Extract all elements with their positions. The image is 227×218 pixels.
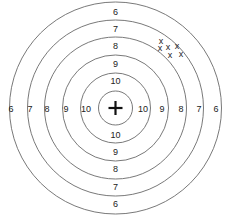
label-top-9: 9 — [113, 59, 118, 69]
label-bottom-9: 9 — [113, 147, 118, 157]
shot-mark: x — [168, 50, 173, 60]
label-top-10: 10 — [110, 76, 120, 86]
label-bottom-6: 6 — [113, 199, 118, 209]
labels-top: 6 7 8 9 10 — [110, 7, 120, 86]
label-bottom-8: 8 — [113, 164, 118, 174]
label-top-7: 7 — [113, 24, 118, 34]
label-left-9: 9 — [63, 104, 68, 114]
shot-mark: x — [158, 43, 163, 53]
labels-left: 6 7 8 9 10 — [8, 104, 91, 114]
label-left-6: 6 — [8, 104, 13, 114]
labels-bottom: 10 9 8 7 6 — [110, 130, 120, 209]
shot-mark: x — [179, 49, 184, 59]
label-top-8: 8 — [113, 41, 118, 51]
center-crosshair-icon — [109, 101, 123, 115]
label-top-6: 6 — [113, 7, 118, 17]
label-bottom-10: 10 — [110, 130, 120, 140]
shooting-target: 6 7 8 9 10 10 9 8 7 6 6 7 8 9 10 10 9 8 … — [0, 0, 227, 218]
label-right-10: 10 — [138, 104, 148, 114]
label-left-7: 7 — [27, 104, 32, 114]
label-bottom-7: 7 — [113, 182, 118, 192]
label-left-10: 10 — [81, 104, 91, 114]
label-left-8: 8 — [44, 104, 49, 114]
label-right-8: 8 — [178, 104, 183, 114]
label-right-9: 9 — [159, 104, 164, 114]
label-right-6: 6 — [213, 104, 218, 114]
label-right-7: 7 — [196, 104, 201, 114]
